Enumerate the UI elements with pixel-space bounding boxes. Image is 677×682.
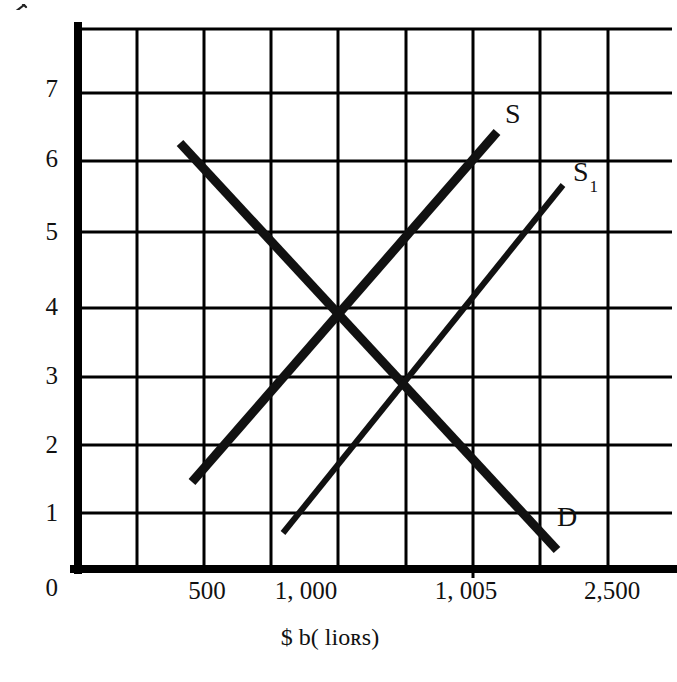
curve-label-demand-text: D [557,501,577,532]
demand-curve [180,143,557,550]
curve-label-supply: S [505,100,521,128]
curve-label-supply-shifted: S1 [573,158,597,191]
supply-curve-s1 [283,185,563,533]
y-tick-label-2: 2 [18,432,58,457]
x-tick-label-1005: 1, 005 [408,578,524,603]
curve-label-supply-shifted-text: S [573,156,589,187]
y-tick-label-6: 6 [18,146,58,171]
curve-label-supply-shifted-subscript: 1 [590,177,599,196]
y-tick-label-3: 3 [18,363,58,388]
y-tick-label-7: 7 [18,76,58,101]
y-tick-label-1: 1 [18,500,58,525]
y-tick-label-4: 4 [18,294,58,319]
x-tick-label-2500: 2,500 [557,578,667,603]
curve-label-supply-text: S [505,98,521,129]
y-tick-label-0: 0 [18,575,58,600]
x-axis-title: $ b( lioʀs) [230,625,430,649]
curve-label-demand: D [557,503,577,531]
x-tick-label-1000: 1, 000 [248,578,364,603]
x-tick-label-500: 500 [157,578,257,603]
grid-vertical-lines [137,28,608,568]
supply-demand-chart: 7 6 5 4 3 2 1 0 500 1, 000 1, 005 2,500 … [0,0,677,682]
y-tick-label-5: 5 [18,219,58,244]
